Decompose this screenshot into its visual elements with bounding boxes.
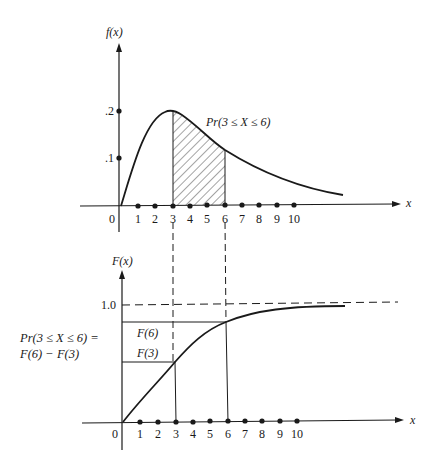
cdf-x-tick-labels: 1 2 3 4 5 6 7 8 9 10 <box>137 427 303 441</box>
svg-text:3: 3 <box>173 427 179 441</box>
probability-annotation-line1: Pr(3 ≤ X ≤ 6) = <box>19 331 99 345</box>
x3-vertical-line <box>175 362 176 422</box>
pdf-x-axis-label: x <box>405 196 412 210</box>
pdf-y-arrow-icon <box>116 43 122 52</box>
y-tick-dot <box>116 108 121 113</box>
cdf-y-arrow-icon <box>119 270 125 279</box>
pdf-x-arrow-icon <box>392 201 401 207</box>
x6-vertical-line <box>226 322 228 422</box>
svg-text:10: 10 <box>291 427 303 441</box>
pdf-x-tick-labels: 1 2 3 4 5 6 7 8 9 10 <box>135 212 300 226</box>
svg-text:9: 9 <box>277 427 283 441</box>
y-tick-label: .1 <box>105 151 114 165</box>
origin-label: 0 <box>112 427 118 441</box>
cdf-curve <box>123 306 345 422</box>
probability-annotation-line2: F(6) − F(3) <box>19 347 79 361</box>
svg-text:4: 4 <box>190 427 196 441</box>
svg-text:5: 5 <box>204 212 210 226</box>
svg-text:10: 10 <box>288 212 300 226</box>
svg-text:2: 2 <box>155 427 161 441</box>
x6-dashed-connector <box>225 222 226 322</box>
cdf-x-arrow-icon <box>395 417 404 423</box>
svg-text:7: 7 <box>242 427 248 441</box>
cdf-x-axis-label: x <box>409 413 416 427</box>
cdf-panel: F(x) 1.0 F(6) F(3) x 0 1 <box>19 254 416 450</box>
svg-text:1: 1 <box>135 212 141 226</box>
svg-text:7: 7 <box>239 212 245 226</box>
cdf-y-axis-label: F(x) <box>111 254 133 268</box>
svg-text:8: 8 <box>256 212 262 226</box>
f3-label: F(3) <box>136 346 158 360</box>
svg-text:9: 9 <box>274 212 280 226</box>
asymptote-dashed-line <box>122 302 398 305</box>
pdf-cdf-diagram: f(x) .2 .1 x 0 1 2 3 4 5 <box>0 0 436 468</box>
svg-text:1: 1 <box>137 427 143 441</box>
pdf-y-axis-label: f(x) <box>106 25 123 39</box>
svg-text:5: 5 <box>207 427 213 441</box>
y-tick-1.0-label: 1.0 <box>101 298 116 312</box>
pdf-panel: f(x) .2 .1 x 0 1 2 3 4 5 <box>80 25 412 232</box>
f6-label: F(6) <box>136 326 158 340</box>
svg-text:2: 2 <box>152 212 158 226</box>
y-tick-label: .2 <box>105 104 114 118</box>
cdf-x-axis <box>82 420 398 423</box>
y-tick-dot <box>116 155 121 160</box>
svg-text:6: 6 <box>225 427 231 441</box>
svg-text:8: 8 <box>259 427 265 441</box>
origin-label: 0 <box>109 212 115 226</box>
svg-text:4: 4 <box>187 212 193 226</box>
shaded-region-label: Pr(3 ≤ X ≤ 6) <box>205 115 271 129</box>
pdf-x-axis <box>80 204 396 206</box>
